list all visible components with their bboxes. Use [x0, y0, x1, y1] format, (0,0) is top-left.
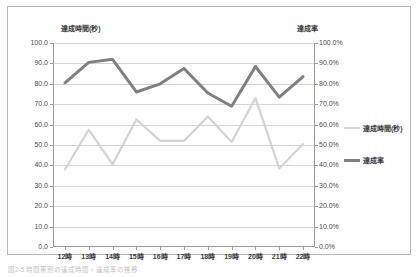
x-axis-tick-label: 14時	[105, 251, 120, 261]
tick-mark	[315, 165, 318, 166]
tick-mark	[315, 84, 318, 85]
tick-mark	[315, 63, 318, 64]
tick-mark	[315, 145, 318, 146]
x-axis-tick-label: 16時	[153, 251, 168, 261]
x-axis-tick-labels: 12時13時14時15時16時17時18時19時20時21時22時	[53, 251, 315, 263]
tick-mark	[279, 247, 280, 250]
right-axis-tick-label: 70.0%	[319, 100, 359, 107]
right-axis-tick-label: 100.0%	[319, 39, 359, 46]
tick-mark	[315, 227, 318, 228]
x-axis-tick-label: 20時	[248, 251, 263, 261]
legend-item[interactable]: 達成率	[344, 153, 418, 167]
x-axis-tick-label: 15時	[129, 251, 144, 261]
right-axis-tick-label: 80.0%	[319, 80, 359, 87]
legend: 達成時間(秒)達成率	[344, 121, 418, 185]
x-axis-tick-label: 22時	[296, 251, 311, 261]
left-axis-tick-label: 10.0	[14, 223, 48, 230]
tick-mark	[65, 247, 66, 250]
left-axis-tick-label: 60.0	[14, 121, 48, 128]
left-axis-tick-labels: 100.090.080.070.060.050.040.030.020.010.…	[12, 43, 48, 247]
x-axis-tick-label: 19時	[224, 251, 239, 261]
x-axis-tick-label: 18時	[200, 251, 215, 261]
tick-mark	[184, 247, 185, 250]
right-axis-tick-label: 20.0%	[319, 202, 359, 209]
left-axis-tick-label: 0.0	[14, 243, 48, 250]
legend-item[interactable]: 達成時間(秒)	[344, 121, 418, 135]
chart-frame: 達成時間(秒) 達成率 100.090.080.070.060.050.040.…	[7, 6, 411, 255]
left-axis-tick-label: 70.0	[14, 100, 48, 107]
tick-mark	[315, 206, 318, 207]
legend-label: 達成時間(秒)	[363, 123, 403, 133]
left-axis-title: 達成時間(秒)	[61, 23, 101, 33]
tick-mark	[208, 247, 209, 250]
series-line	[65, 59, 303, 106]
right-axis-tick-label: 0.0%	[319, 243, 359, 250]
x-axis-tick-label: 17時	[177, 251, 192, 261]
tick-mark	[303, 247, 304, 250]
left-axis-tick-label: 100.0	[14, 39, 48, 46]
series-lines	[53, 43, 315, 247]
left-axis-tick-label: 40.0	[14, 161, 48, 168]
tick-mark	[160, 247, 161, 250]
tick-mark	[255, 247, 256, 250]
left-axis-tick-label: 90.0	[14, 59, 48, 66]
tick-mark	[315, 186, 318, 187]
legend-color-swatch	[344, 127, 360, 129]
right-axis-tick-label: 10.0%	[319, 223, 359, 230]
right-axis-tick-label: 90.0%	[319, 59, 359, 66]
tick-mark	[315, 104, 318, 105]
tick-mark	[136, 247, 137, 250]
x-axis-tick-label: 12時	[58, 251, 73, 261]
figure-caption: 図2-5 時間帯別の達成時間・達成率の推移	[8, 264, 138, 274]
tick-mark	[50, 247, 53, 248]
x-axis-tick-label: 13時	[81, 251, 96, 261]
tick-mark	[315, 43, 318, 44]
right-axis-title: 達成率	[297, 23, 318, 33]
tick-mark	[232, 247, 233, 250]
x-axis-tick-label: 21時	[272, 251, 287, 261]
legend-color-swatch	[344, 159, 360, 162]
left-axis-tick-label: 80.0	[14, 80, 48, 87]
tick-mark	[89, 247, 90, 250]
tick-mark	[315, 125, 318, 126]
left-axis-tick-label: 30.0	[14, 182, 48, 189]
left-axis-tick-label: 50.0	[14, 141, 48, 148]
plot-area	[53, 43, 315, 247]
left-axis-tick-label: 20.0	[14, 202, 48, 209]
series-line	[65, 98, 303, 169]
tick-mark	[315, 247, 318, 248]
tick-mark	[113, 247, 114, 250]
legend-label: 達成率	[363, 155, 384, 165]
